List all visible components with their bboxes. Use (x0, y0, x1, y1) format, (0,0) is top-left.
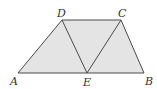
label-a: A (9, 75, 18, 88)
trapezoid-fill (18, 20, 144, 73)
label-c: C (118, 7, 127, 20)
label-e: E (82, 76, 91, 89)
trapezoid-diagram: A E B D C (0, 0, 157, 89)
label-d: D (56, 7, 66, 20)
label-b: B (144, 75, 153, 88)
